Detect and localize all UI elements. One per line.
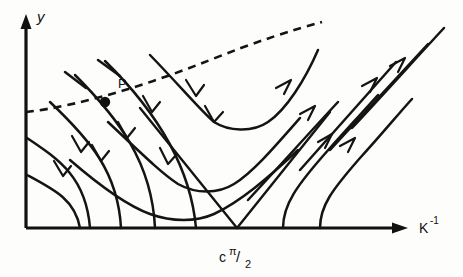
saddle-tick-label-group: c π / 2 [219, 245, 251, 270]
point-p-label: P [118, 76, 127, 91]
y-axis-arrow-icon [21, 14, 32, 29]
x-axis-label-group: K -1 [419, 215, 439, 236]
x-axis-arrow-icon [392, 223, 408, 234]
arrow-out-5-icon [300, 106, 315, 120]
arrow-out-6-icon [276, 80, 291, 94]
arrow-in-2-icon [72, 136, 89, 152]
trajectory-out-2 [320, 99, 412, 228]
arrow-in-1-icon [54, 161, 71, 176]
trajectory-in-3 [50, 102, 121, 228]
arrow-out-2-icon [340, 138, 355, 152]
outgoing-trajectories-group [248, 28, 444, 228]
diagram-canvas: y P K -1 c π / 2 [0, 0, 463, 277]
saddle-label-denominator: 2 [245, 258, 251, 270]
trajectory-out-6 [248, 102, 338, 200]
phase-portrait-figure: y P K -1 c π / 2 [0, 0, 463, 277]
x-axis-label-base: K [419, 220, 429, 236]
arrow-in-8-icon [205, 106, 223, 122]
trajectory-stubs-group [65, 60, 120, 88]
dashed-threshold-curve [26, 22, 322, 112]
trajectory-basin-3 [70, 150, 298, 220]
saddle-label-base: c [219, 249, 226, 265]
trajectory-in-6-separatrix-basin [150, 50, 318, 130]
saddle-label-slash: / [236, 248, 241, 265]
trajectory-stub-1 [98, 60, 120, 76]
y-axis-label: y [36, 8, 46, 25]
trajectory-out-3 [300, 62, 396, 170]
arrow-in-7-icon [186, 80, 204, 96]
arrow-in-5-icon [143, 96, 160, 112]
point-p-marker [100, 97, 110, 107]
trajectory-in-1 [27, 175, 80, 228]
x-axis-label-exponent: -1 [430, 215, 439, 226]
